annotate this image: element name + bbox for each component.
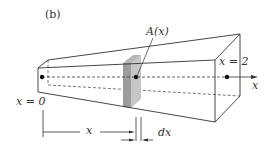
panel-label: (b) (45, 9, 61, 20)
end-point (225, 75, 229, 79)
dx-right-arrowhead (142, 139, 148, 142)
solid-cross-section-diagram: (b) A(x) x = 2 x x = 0 x dx (0, 0, 271, 154)
origin-point (40, 75, 44, 79)
diagram-drawing (0, 0, 271, 154)
cross-section-label: A(x) (146, 26, 169, 37)
x-arrowhead (129, 131, 135, 134)
dx-left-arrowhead (129, 139, 135, 142)
slab-cross-section (123, 55, 141, 108)
left-end-label: x = 0 (16, 96, 45, 107)
distance-label: x (86, 125, 92, 136)
thickness-label: dx (158, 127, 171, 138)
axis-label: x (252, 80, 258, 91)
dimension-lines (43, 110, 153, 141)
hidden-edges (48, 60, 240, 96)
right-end-label: x = 2 (219, 56, 248, 67)
